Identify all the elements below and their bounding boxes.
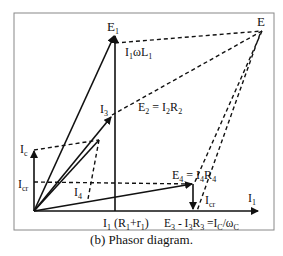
- label-e4-equation: E4 = I4R4: [172, 168, 216, 184]
- e-to-e3-dashed: [197, 34, 260, 211]
- label-e1: E1: [107, 19, 119, 36]
- label-icr-right: Icr: [205, 193, 216, 209]
- label-i4: I4: [74, 185, 82, 201]
- icr-dashed: [34, 182, 193, 184]
- label-icr: Icr: [18, 177, 29, 193]
- e1-to-e-dashed: [115, 31, 262, 43]
- label-e2-equation: E2 = I2R2: [138, 100, 182, 116]
- phasor-diagram: E1 I1ωL1 E I3 E2 = I2R2 Ic Icr I4 E4 = I…: [0, 0, 283, 256]
- origin-to-i3: [34, 140, 99, 211]
- i3-to-e-dashed: [112, 31, 262, 115]
- i3-to-i4-dashed: [88, 140, 99, 199]
- label-i3: I3: [100, 102, 108, 118]
- i3-phasor: [34, 117, 111, 211]
- i4-phasor: [34, 184, 192, 211]
- e-to-e4-dashed: [194, 31, 262, 184]
- label-i1-omega-l1: I1ωL1: [125, 45, 152, 61]
- figure-caption: (b) Phasor diagram.: [0, 232, 283, 248]
- label-i1: I1: [248, 191, 256, 207]
- label-ic: Ic: [20, 142, 28, 158]
- label-i1-r1-plus-r1: I1 (R1+r1): [103, 216, 149, 232]
- label-e: E: [257, 14, 265, 29]
